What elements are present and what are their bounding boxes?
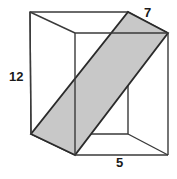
edge-bottom-right-connector — [128, 134, 168, 155]
dimension-label-depth: 7 — [144, 6, 151, 19]
edge-back-left-vertical — [30, 12, 31, 134]
dimension-label-height: 12 — [9, 70, 23, 83]
edge-top-left-connector — [30, 12, 75, 33]
prism-drawing — [0, 0, 177, 179]
prism-figure: 12 7 5 — [0, 0, 177, 179]
dimension-label-width: 5 — [116, 156, 123, 169]
